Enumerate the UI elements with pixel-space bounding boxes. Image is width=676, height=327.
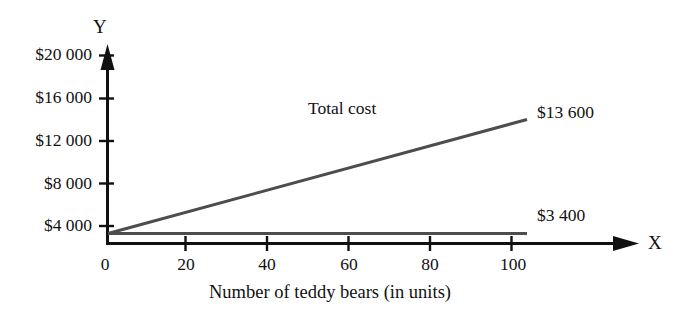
series-label-total-cost: Total cost [308,100,376,118]
y-tick-label-16000: $16 000 [0,89,92,107]
value-label-total-cost: $13 600 [537,104,594,122]
series-line-total-cost [108,120,527,234]
y-tick-label-4000: $4 000 [0,217,92,235]
x-tick-label-100: 100 [500,256,526,274]
x-tick-label-0: 0 [101,256,110,274]
chart-figure: $20 000 $16 000 $12 000 $8 000 $4 000 0 … [0,0,676,327]
chart-plot-area [0,0,676,327]
x-tick-label-80: 80 [421,256,439,274]
y-axis-letter: Y [93,17,107,36]
x-axis-arrowhead [613,236,639,251]
y-tick-label-12000: $12 000 [0,132,92,150]
y-axis-arrowhead [101,44,115,70]
x-tick-label-60: 60 [340,256,358,274]
x-tick-label-40: 40 [258,256,276,274]
x-tick-label-20: 20 [177,256,195,274]
y-tick-label-8000: $8 000 [0,175,92,193]
x-axis-title: Number of teddy bears (in units) [209,283,451,302]
y-tick-label-20000: $20 000 [0,46,92,64]
value-label-fixed-cost: $3 400 [537,207,585,225]
x-axis-letter: X [648,233,662,252]
